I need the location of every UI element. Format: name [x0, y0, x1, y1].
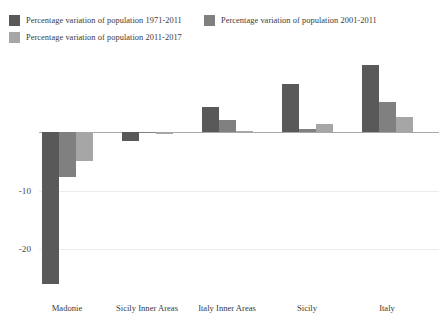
legend-swatch-1971-2011	[9, 15, 20, 26]
bar	[316, 124, 333, 132]
legend-swatch-2011-2017	[9, 32, 20, 43]
legend-entry-1971-2011[interactable]: Percentage variation of population 1971-…	[9, 13, 182, 27]
bar	[379, 102, 396, 132]
x-axis-tick-label: Italy Inner Areas	[198, 303, 256, 313]
plot-area: -10-20MadonieSicily Inner AreasItaly Inn…	[39, 56, 439, 296]
population-variation-bar-chart: Percentage variation of population 1971-…	[0, 0, 446, 323]
y-axis-tick-label: -20	[0, 244, 31, 254]
zero-axis-line	[39, 132, 439, 133]
legend-label-2011-2017: Percentage variation of population 2011-…	[26, 32, 182, 43]
y-axis-tick-label: -10	[0, 186, 31, 196]
bar	[396, 117, 413, 132]
bar	[236, 131, 253, 132]
gridline	[39, 191, 439, 192]
bar	[122, 132, 139, 141]
bar	[76, 132, 93, 161]
x-axis-tick-label: Sicily Inner Areas	[116, 303, 178, 313]
bar	[202, 107, 219, 132]
bar	[139, 132, 156, 133]
bar	[299, 129, 316, 132]
bar	[219, 120, 236, 132]
legend-entry-2011-2017[interactable]: Percentage variation of population 2011-…	[9, 30, 182, 44]
legend-label-2001-2011: Percentage variation of population 2001-…	[221, 15, 377, 26]
legend-entry-2001-2011[interactable]: Percentage variation of population 2001-…	[204, 13, 377, 27]
bar	[362, 65, 379, 132]
gridline	[39, 249, 439, 250]
legend-label-1971-2011: Percentage variation of population 1971-…	[26, 15, 182, 26]
bar	[59, 132, 76, 177]
x-axis-tick-label: Italy	[379, 303, 395, 313]
legend-swatch-2001-2011	[204, 15, 215, 26]
bar	[282, 84, 299, 133]
bar	[42, 132, 59, 284]
bar	[156, 132, 173, 134]
chart-legend: Percentage variation of population 1971-…	[0, 0, 446, 48]
x-axis-tick-label: Sicily	[297, 303, 317, 313]
x-axis-tick-label: Madonie	[52, 303, 83, 313]
